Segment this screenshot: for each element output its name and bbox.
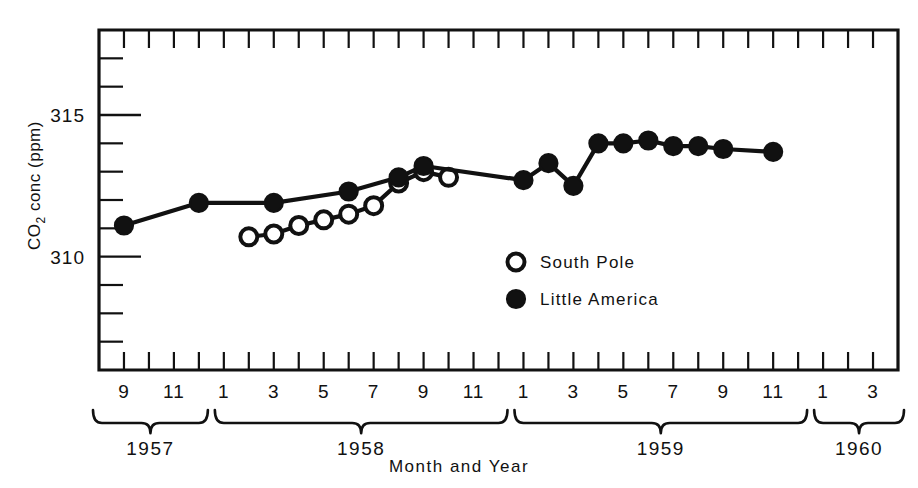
data-point: [714, 140, 732, 158]
data-point: [415, 157, 433, 175]
data-point: [639, 132, 657, 150]
x-axis-tick-label: 11: [762, 381, 784, 402]
y-axis-title-suffix: conc (ppm): [25, 121, 44, 216]
year-brace: [93, 410, 208, 433]
year-brace-group: [93, 410, 904, 433]
data-point: [240, 228, 257, 245]
data-point: [514, 171, 532, 189]
chart-legend: South PoleLittle America: [507, 253, 659, 309]
y-axis-tick-label: 315: [50, 105, 85, 126]
x-axis-tick-label: 11: [463, 381, 485, 402]
x-axis-tick-label: 7: [368, 381, 380, 402]
year-label-group: 1957195819591960: [126, 438, 883, 459]
data-point: [340, 206, 357, 223]
x-axis-tick-label: 3: [268, 381, 280, 402]
x-axis-tick-label: 7: [667, 381, 679, 402]
data-point: [315, 211, 332, 228]
x-axis-tick-label: 3: [867, 381, 879, 402]
legend-marker-filled-circle: [507, 290, 525, 308]
chart-canvas: 310315 9111357911135791113 1957195819591…: [0, 0, 918, 488]
year-label: 1960: [835, 438, 883, 459]
year-label: 1957: [126, 438, 174, 459]
data-point: [589, 134, 607, 152]
data-point: [614, 134, 632, 152]
x-axis-tick-label: 9: [118, 381, 130, 402]
data-point: [564, 177, 582, 195]
plot-frame: [99, 30, 898, 370]
x-axis-tick-label: 5: [618, 381, 630, 402]
data-series-layer: [115, 132, 782, 246]
x-axis-tick-label: 9: [418, 381, 430, 402]
svg-text:CO2 conc (ppm): CO2 conc (ppm): [25, 121, 48, 250]
data-point: [539, 154, 557, 172]
data-point: [365, 197, 382, 214]
x-axis-tick-label: 1: [218, 381, 230, 402]
data-point: [265, 194, 283, 212]
data-point: [689, 137, 707, 155]
x-axis-ticks-top: [124, 30, 873, 48]
x-axis-tick-label: 1: [817, 381, 829, 402]
x-axis-tick-label: 1: [518, 381, 530, 402]
legend-marker-open-circle: [508, 254, 525, 271]
year-brace: [215, 410, 508, 433]
y-axis-title: CO2 conc (ppm): [25, 121, 48, 250]
year-brace: [514, 410, 807, 433]
y-axis-title-subscript: 2: [34, 216, 48, 223]
data-point: [265, 226, 282, 243]
year-label: 1959: [637, 438, 685, 459]
data-point: [764, 143, 782, 161]
x-axis-tick-label: 9: [717, 381, 729, 402]
y-axis-ticks: [99, 58, 141, 341]
data-point: [390, 168, 408, 186]
y-axis-tick-labels: 310315: [50, 105, 85, 268]
x-axis-tick-label: 11: [163, 381, 185, 402]
year-brace: [814, 410, 904, 433]
x-axis-title: Month and Year: [389, 457, 529, 476]
co2-chart-figure: 310315 9111357911135791113 1957195819591…: [0, 0, 918, 488]
x-axis-tick-label: 3: [568, 381, 580, 402]
data-point: [340, 183, 358, 201]
y-axis-title-prefix: CO: [25, 224, 44, 251]
data-point: [664, 137, 682, 155]
x-axis-tick-labels: 9111357911135791113: [118, 381, 879, 402]
legend-label: Little America: [540, 290, 659, 309]
data-point: [290, 217, 307, 234]
y-axis-tick-label: 310: [50, 247, 85, 268]
x-axis-ticks-bottom: [124, 352, 873, 370]
data-point: [190, 194, 208, 212]
x-axis-tick-label: 5: [318, 381, 330, 402]
year-label: 1958: [337, 438, 385, 459]
legend-label: South Pole: [540, 253, 635, 272]
data-point: [115, 217, 133, 235]
